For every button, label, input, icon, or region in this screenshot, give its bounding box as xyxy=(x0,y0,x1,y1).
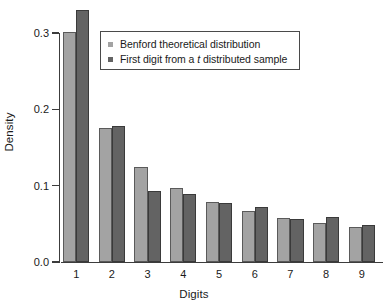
bar-series0-digit9 xyxy=(349,227,362,262)
legend-swatch-benford-icon xyxy=(108,42,113,47)
legend: Benford theoretical distribution First d… xyxy=(100,31,300,70)
bar-series0-digit7 xyxy=(277,218,290,262)
bar-series0-digit3 xyxy=(134,167,147,262)
legend-label-sample: First digit from a t distributed sample xyxy=(120,53,287,65)
legend-entry-sample: First digit from a t distributed sample xyxy=(108,51,287,67)
benford-distribution-chart: Density Digits 0.00.10.20.3 123456789 Be… xyxy=(0,0,388,308)
bar-series1-digit9 xyxy=(362,225,375,262)
legend-label-benford: Benford theoretical distribution xyxy=(120,38,260,50)
bar-series1-digit3 xyxy=(148,191,161,262)
bar-series0-digit1 xyxy=(63,32,76,262)
bar-series1-digit6 xyxy=(255,207,268,262)
bar-series0-digit5 xyxy=(206,202,219,262)
legend-entry-benford: Benford theoretical distribution xyxy=(108,36,260,52)
bar-series1-digit2 xyxy=(112,126,125,262)
bar-series0-digit4 xyxy=(170,188,183,262)
bar-series1-digit7 xyxy=(290,219,303,262)
bar-series1-digit8 xyxy=(326,217,339,262)
bar-series0-digit6 xyxy=(242,211,255,262)
bar-series0-digit8 xyxy=(313,223,326,262)
bar-series1-digit1 xyxy=(76,10,89,262)
legend-swatch-sample-icon xyxy=(108,57,113,62)
bar-series0-digit2 xyxy=(99,128,112,262)
bar-series1-digit5 xyxy=(219,203,232,262)
bar-series1-digit4 xyxy=(183,194,196,262)
